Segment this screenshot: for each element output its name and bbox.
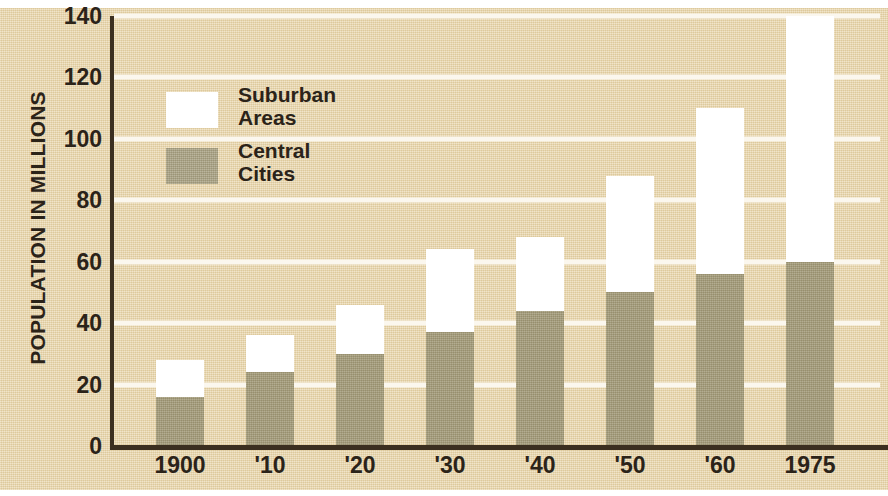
y-axis-tick-label: 20 [44, 371, 102, 398]
x-axis-tick-labels: 1900'10'20'30'40'50'601975 [110, 452, 888, 492]
bar-segment-suburban-areas [696, 108, 744, 274]
legend-label-suburban-areas: Suburban Areas [238, 84, 336, 129]
bar-segment-suburban-areas [516, 237, 564, 311]
bar-group [156, 360, 204, 446]
gridline [114, 14, 880, 19]
bar-segment-suburban-areas [246, 335, 294, 372]
bar-segment-central-cities [426, 332, 474, 446]
plot-area [110, 16, 880, 446]
legend-label-suburban-areas-line2: Areas [238, 107, 336, 130]
bar-segment-suburban-areas [426, 249, 474, 332]
bar-group [336, 305, 384, 446]
legend-label-central-cities-line2: Cities [238, 163, 310, 186]
legend-label-suburban-areas-line1: Suburban [238, 84, 336, 107]
bar-group [426, 249, 474, 446]
bar-segment-central-cities [696, 274, 744, 446]
bar-segment-central-cities [246, 372, 294, 446]
bar-segment-suburban-areas [336, 305, 384, 354]
gridline [114, 259, 880, 264]
y-axis-tick-label: 60 [44, 248, 102, 275]
x-axis-tick-label: '50 [614, 452, 645, 479]
x-axis-tick-label: 1900 [154, 452, 205, 479]
bar-segment-central-cities [336, 354, 384, 446]
x-axis-tick-label: '20 [344, 452, 375, 479]
bar-group [516, 237, 564, 446]
bar-group [606, 176, 654, 446]
y-axis-tick-label: 100 [44, 125, 102, 152]
x-axis-tick-label: '30 [434, 452, 465, 479]
legend-item-suburban-areas: Suburban Areas [166, 86, 396, 142]
bar-segment-central-cities [786, 262, 834, 446]
y-axis-tick-label: 80 [44, 187, 102, 214]
gridline [114, 321, 880, 326]
y-axis-tick-labels: 020406080100120140 [44, 0, 102, 496]
bar-group [696, 108, 744, 446]
legend-swatch-suburban-areas [166, 92, 218, 128]
x-axis-line [110, 445, 888, 450]
bar-segment-suburban-areas [156, 360, 204, 397]
x-axis-tick-label: 1975 [784, 452, 835, 479]
gridline [114, 75, 880, 80]
legend-label-central-cities: Central Cities [238, 140, 310, 185]
legend-swatch-central-cities [166, 148, 218, 184]
chart-legend: Suburban Areas Central Cities [166, 86, 396, 198]
bar-segment-suburban-areas [606, 176, 654, 293]
x-axis-tick-label: '40 [524, 452, 555, 479]
legend-item-central-cities: Central Cities [166, 142, 396, 198]
population-stacked-bar-chart: POPULATION IN MILLIONS 02040608010012014… [0, 0, 888, 496]
bar-segment-central-cities [606, 292, 654, 446]
y-axis-line [110, 16, 114, 446]
legend-label-central-cities-line1: Central [238, 140, 310, 163]
y-axis-tick-label: 140 [44, 3, 102, 30]
x-axis-tick-label: '60 [704, 452, 735, 479]
bar-segment-suburban-areas [786, 16, 834, 262]
bar-group [246, 335, 294, 446]
gridline [114, 198, 880, 203]
y-axis-tick-label: 0 [44, 433, 102, 460]
bar-segment-central-cities [516, 311, 564, 446]
x-axis-tick-label: '10 [254, 452, 285, 479]
y-axis-tick-label: 120 [44, 64, 102, 91]
y-axis-tick-label: 40 [44, 310, 102, 337]
bar-segment-central-cities [156, 397, 204, 446]
bar-group [786, 16, 834, 446]
gridline [114, 382, 880, 387]
